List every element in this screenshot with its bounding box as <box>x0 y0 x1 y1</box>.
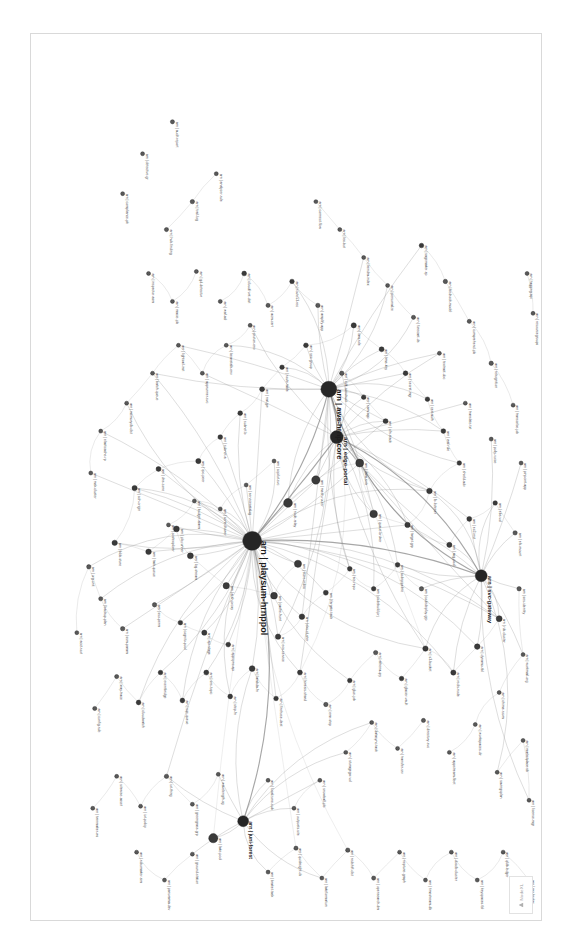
graph-node[interactable] <box>176 343 180 347</box>
graph-node[interactable] <box>474 644 480 650</box>
graph-node[interactable] <box>403 371 408 376</box>
graph-node[interactable] <box>467 516 472 521</box>
graph-node[interactable] <box>441 429 446 434</box>
graph-node[interactable] <box>224 343 228 347</box>
graph-node[interactable] <box>99 429 103 433</box>
graph-node[interactable] <box>115 674 119 678</box>
graph-node[interactable] <box>146 549 152 555</box>
graph-node[interactable] <box>423 878 427 882</box>
graph-node[interactable] <box>312 476 320 484</box>
graph-node[interactable] <box>280 365 285 370</box>
graph-node[interactable] <box>527 798 531 802</box>
graph-node[interactable] <box>356 459 364 467</box>
graph-node[interactable] <box>274 696 279 701</box>
graph-node[interactable] <box>496 616 502 622</box>
graph-node[interactable] <box>457 461 462 466</box>
graph-node[interactable] <box>447 750 451 754</box>
graph-node[interactable] <box>218 507 222 511</box>
graph-node[interactable] <box>214 172 218 176</box>
graph-node[interactable] <box>266 303 270 307</box>
graph-node[interactable] <box>340 371 344 375</box>
graph-node[interactable] <box>371 586 376 591</box>
graph-node[interactable] <box>125 401 129 405</box>
graph-node[interactable] <box>421 718 425 722</box>
graph-node[interactable] <box>223 583 229 589</box>
graph-node[interactable] <box>112 540 117 545</box>
graph-node[interactable] <box>170 299 174 303</box>
graph-node[interactable] <box>447 542 452 547</box>
graph-node[interactable] <box>284 499 293 508</box>
graph-node[interactable] <box>351 323 356 328</box>
graph-node[interactable] <box>292 806 296 810</box>
graph-node[interactable] <box>190 852 194 856</box>
graph-node[interactable] <box>419 243 424 248</box>
graph-node[interactable] <box>187 553 193 559</box>
graph-node[interactable] <box>216 772 220 776</box>
graph-node[interactable] <box>425 397 430 402</box>
graph-node[interactable] <box>531 311 535 315</box>
graph-node[interactable] <box>521 738 525 742</box>
graph-node[interactable] <box>152 603 156 607</box>
graph-node[interactable] <box>120 626 124 630</box>
graph-node[interactable] <box>299 614 305 620</box>
graph-node[interactable] <box>449 850 453 854</box>
graph-node[interactable] <box>383 419 388 424</box>
graph-node[interactable] <box>190 802 194 806</box>
graph-node[interactable] <box>320 876 324 880</box>
graph-node[interactable] <box>238 411 243 416</box>
graph-node[interactable] <box>495 770 499 774</box>
graph-node[interactable] <box>467 319 471 323</box>
graph-node[interactable] <box>158 670 163 675</box>
graph-node[interactable] <box>344 750 348 754</box>
graph-node[interactable] <box>196 458 201 463</box>
graph-node[interactable] <box>346 848 350 852</box>
graph-node[interactable] <box>180 698 185 703</box>
graph-node[interactable] <box>194 269 198 273</box>
graph-node[interactable] <box>297 670 302 675</box>
graph-node[interactable] <box>139 804 143 808</box>
graph-node[interactable] <box>192 499 196 503</box>
graph-node[interactable] <box>473 722 477 726</box>
graph-node[interactable] <box>373 650 377 654</box>
graph-node[interactable] <box>405 522 410 527</box>
graph-node[interactable] <box>501 850 505 854</box>
network-graph[interactable]: arn | playsum-hrnppolarn | aws-hrnp-core… <box>31 34 541 920</box>
graph-node[interactable] <box>204 670 209 675</box>
graph-node[interactable] <box>151 371 155 375</box>
graph-node[interactable] <box>475 570 487 582</box>
graph-node[interactable] <box>347 678 352 683</box>
graph-node[interactable] <box>170 120 174 124</box>
graph-node[interactable] <box>427 488 433 494</box>
graph-node[interactable] <box>347 566 352 571</box>
graph-node[interactable] <box>316 303 320 307</box>
graph-node[interactable] <box>218 435 223 440</box>
graph-node[interactable] <box>272 459 276 463</box>
graph-node[interactable] <box>162 878 166 882</box>
graph-node[interactable] <box>89 471 93 475</box>
graph-node[interactable] <box>521 653 525 657</box>
graph-node[interactable] <box>513 531 517 535</box>
graph-node[interactable] <box>395 562 400 567</box>
graph-node[interactable] <box>242 271 247 276</box>
graph-node[interactable] <box>411 315 415 319</box>
graph-node[interactable] <box>321 381 337 397</box>
graph-node[interactable] <box>260 387 265 392</box>
graph-node[interactable] <box>398 850 402 854</box>
graph-node[interactable] <box>99 597 103 601</box>
graph-node[interactable] <box>370 510 378 518</box>
graph-node[interactable] <box>271 592 278 599</box>
graph-node[interactable] <box>511 403 515 407</box>
graph-node[interactable] <box>419 587 423 591</box>
graph-node[interactable] <box>266 778 270 782</box>
graph-node[interactable] <box>362 256 366 260</box>
graph-node[interactable] <box>249 666 255 672</box>
graph-node[interactable] <box>323 590 328 595</box>
graph-node[interactable] <box>132 485 137 490</box>
graph-node[interactable] <box>226 642 231 647</box>
graph-node[interactable] <box>423 646 428 651</box>
graph-node[interactable] <box>493 501 498 506</box>
graph-node[interactable] <box>294 560 301 567</box>
graph-node[interactable] <box>218 299 222 303</box>
graph-node[interactable] <box>248 323 252 327</box>
graph-node[interactable] <box>517 587 521 591</box>
